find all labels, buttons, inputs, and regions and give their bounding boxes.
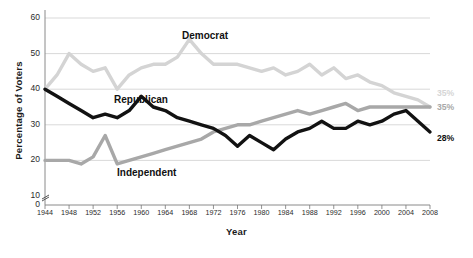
end-label-democrat: 35% xyxy=(437,88,454,98)
plot-area xyxy=(0,0,473,258)
x-tick-label: 2008 xyxy=(413,208,447,217)
y-tick-label: 30 xyxy=(18,119,40,129)
voter-party-affiliation-chart: Percentage of Voters Year Democrat Repub… xyxy=(0,0,473,258)
series-line-independent xyxy=(45,103,430,164)
series-label-republican: Republican xyxy=(114,94,168,105)
end-label-independent: 35% xyxy=(437,102,454,112)
series-label-democrat: Democrat xyxy=(182,30,228,41)
y-tick-label: 20 xyxy=(18,154,40,164)
series-label-independent: Independent xyxy=(117,167,176,178)
y-tick-label: 60 xyxy=(18,12,40,22)
y-tick-label: 40 xyxy=(18,83,40,93)
series-line-democrat xyxy=(45,39,430,107)
y-tick-label: 10 xyxy=(18,190,40,200)
end-label-republican: 28% xyxy=(437,133,454,143)
y-tick-label: 50 xyxy=(18,48,40,58)
